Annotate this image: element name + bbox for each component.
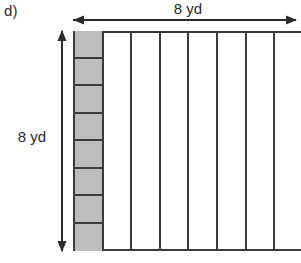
diagram-canvas: d) 8 yd 8 yd [0, 0, 301, 263]
grid-column [218, 31, 247, 251]
unit-square [75, 141, 102, 169]
grid-column [132, 31, 161, 251]
area-grid [73, 31, 301, 251]
grid-column [104, 31, 133, 251]
grid-column [247, 31, 276, 251]
grid-column [161, 31, 190, 251]
unit-square [75, 224, 102, 252]
unit-square [75, 31, 102, 59]
left-dimension-label: 8 yd [4, 128, 60, 146]
unit-square [75, 86, 102, 114]
unit-square [75, 59, 102, 87]
grid-column [275, 31, 301, 251]
unit-square [75, 114, 102, 142]
grid-column [189, 31, 218, 251]
unit-square [75, 169, 102, 197]
top-dimension-label: 8 yd [155, 0, 221, 18]
unit-square [75, 196, 102, 224]
part-label: d) [4, 2, 18, 20]
shaded-column [75, 31, 104, 251]
